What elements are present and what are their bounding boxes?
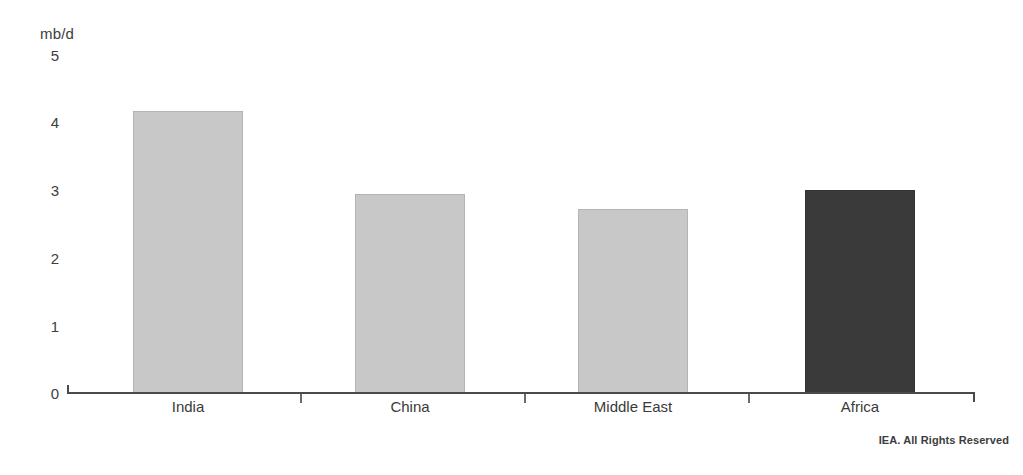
x-axis-start-tick [67, 385, 69, 394]
bar-chart: mb/d 5 4 3 2 1 0 India China Middle East… [0, 0, 1023, 475]
x-label-africa: Africa [805, 398, 915, 415]
bar-india [133, 111, 243, 393]
x-label-china: China [355, 398, 465, 415]
bar-middle-east [578, 209, 688, 393]
x-axis-separator-tick-1 [300, 394, 302, 403]
x-axis-end-tick [973, 392, 975, 402]
x-label-india: India [133, 398, 243, 415]
bar-africa [805, 190, 915, 393]
x-axis-separator-tick-3 [748, 394, 750, 403]
bar-china [355, 194, 465, 393]
copyright-credit: IEA. All Rights Reserved [879, 434, 1009, 446]
x-axis-line [67, 392, 975, 394]
x-label-middle-east: Middle East [558, 398, 708, 415]
x-axis-separator-tick-2 [524, 394, 526, 403]
